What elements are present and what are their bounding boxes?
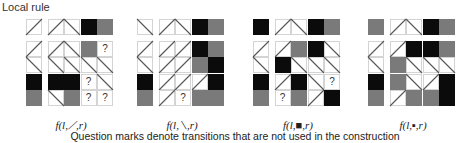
diagonal-up-icon <box>192 74 208 90</box>
question-mark-icon: ? <box>82 91 96 105</box>
diagonal-down-tile <box>406 57 422 73</box>
question-mark-icon: ? <box>98 91 112 105</box>
diagonal-down-icon <box>368 57 384 73</box>
diagonal-down-tile <box>308 57 324 73</box>
diagonal-down-tile <box>64 41 80 57</box>
black-tile <box>368 74 384 90</box>
gray-tile <box>208 90 224 106</box>
diagonal-up-icon <box>48 19 64 35</box>
diagonal-up-tile <box>192 74 208 90</box>
diagonal-down-tile <box>423 57 439 73</box>
black-tile <box>439 90 455 106</box>
black-tile <box>423 41 439 57</box>
diagonal-up-tile <box>275 74 291 90</box>
diagonal-up-icon <box>137 41 153 57</box>
gray-tile <box>368 19 384 35</box>
gray-tile <box>208 41 224 57</box>
diagonal-down-tile <box>324 41 340 57</box>
unused-transition-tile: ? <box>275 90 291 106</box>
diagonal-down-tile <box>48 57 64 73</box>
diagonal-down-icon <box>406 19 422 35</box>
diagonal-up-tile <box>308 90 324 106</box>
diagonal-up-icon <box>275 19 291 35</box>
figure-caption: Question marks denote transitions that a… <box>0 130 470 142</box>
black-tile <box>308 41 324 57</box>
gray-tile <box>368 90 384 106</box>
unused-transition-tile: ? <box>175 90 191 106</box>
diagonal-up-tile <box>390 19 406 35</box>
black-tile <box>275 57 291 73</box>
diagonal-down-icon <box>81 57 97 73</box>
diagonal-up-icon <box>159 19 175 35</box>
diagonal-down-icon <box>97 57 113 73</box>
diagonal-down-tile <box>308 74 324 90</box>
diagonal-down-tile <box>137 57 153 73</box>
diagonal-up-icon <box>159 90 175 106</box>
diagonal-up-tile <box>48 41 64 57</box>
gray-tile <box>406 90 422 106</box>
diagonal-down-tile <box>137 19 153 35</box>
diagonal-down-icon <box>324 57 340 73</box>
diagonal-down-tile <box>64 57 80 73</box>
diagonal-up-tile <box>159 41 175 57</box>
diagonal-up-icon <box>26 19 42 35</box>
diagonal-up-icon <box>275 41 291 57</box>
question-mark-icon: ? <box>176 91 190 105</box>
diagonal-up-tile <box>390 90 406 106</box>
diagonal-up-icon <box>175 57 191 73</box>
diagonal-down-icon <box>423 57 439 73</box>
gray-tile <box>291 41 307 57</box>
diagonal-up-tile <box>423 74 439 90</box>
diagonal-down-tile <box>81 57 97 73</box>
gray-tile <box>64 90 80 106</box>
diagonal-down-tile <box>64 19 80 35</box>
diagonal-down-icon <box>26 57 42 73</box>
question-mark-icon: ? <box>82 75 96 89</box>
question-mark-icon: ? <box>325 75 339 89</box>
gray-tile <box>253 90 269 106</box>
diagonal-down-tile <box>406 19 422 35</box>
diagonal-up-tile <box>390 41 406 57</box>
black-tile <box>291 74 307 90</box>
diagonal-down-icon <box>308 57 324 73</box>
diagonal-up-tile <box>48 19 64 35</box>
diagonal-down-tile <box>291 57 307 73</box>
diagonal-down-icon <box>291 19 307 35</box>
black-tile <box>308 19 324 35</box>
gray-tile <box>97 19 113 35</box>
diagonal-down-tile <box>368 57 384 73</box>
diagonal-down-tile <box>439 57 455 73</box>
gray-tile <box>324 19 340 35</box>
diagonal-down-tile <box>26 57 42 73</box>
gray-tile <box>137 90 153 106</box>
unused-transition-tile: ? <box>97 90 113 106</box>
gray-tile <box>192 57 208 73</box>
gray-tile <box>291 90 307 106</box>
black-tile <box>208 74 224 90</box>
diagonal-up-tile <box>175 74 191 90</box>
diagonal-down-icon <box>175 19 191 35</box>
diagonal-down-tile <box>253 57 269 73</box>
unused-transition-tile: ? <box>324 74 340 90</box>
diagonal-down-tile <box>406 74 422 90</box>
diagonal-up-icon <box>390 90 406 106</box>
diagonal-down-icon <box>64 19 80 35</box>
diagonal-up-icon <box>26 41 42 57</box>
diagonal-up-tile <box>159 74 175 90</box>
question-mark-icon: ? <box>276 91 290 105</box>
black-tile <box>192 41 208 57</box>
black-tile <box>192 19 208 35</box>
diagonal-down-icon <box>406 57 422 73</box>
diagonal-down-icon <box>64 41 80 57</box>
unused-transition-tile: ? <box>81 74 97 90</box>
gray-tile <box>192 90 208 106</box>
gray-tile <box>208 19 224 35</box>
diagonal-down-tile <box>291 19 307 35</box>
diagonal-up-tile <box>159 57 175 73</box>
black-tile <box>81 19 97 35</box>
diagonal-down-icon <box>406 74 422 90</box>
gray-tile <box>390 57 406 73</box>
unused-transition-tile: ? <box>97 41 113 57</box>
diagonal-up-tile <box>275 41 291 57</box>
diagonal-up-tile <box>137 41 153 57</box>
